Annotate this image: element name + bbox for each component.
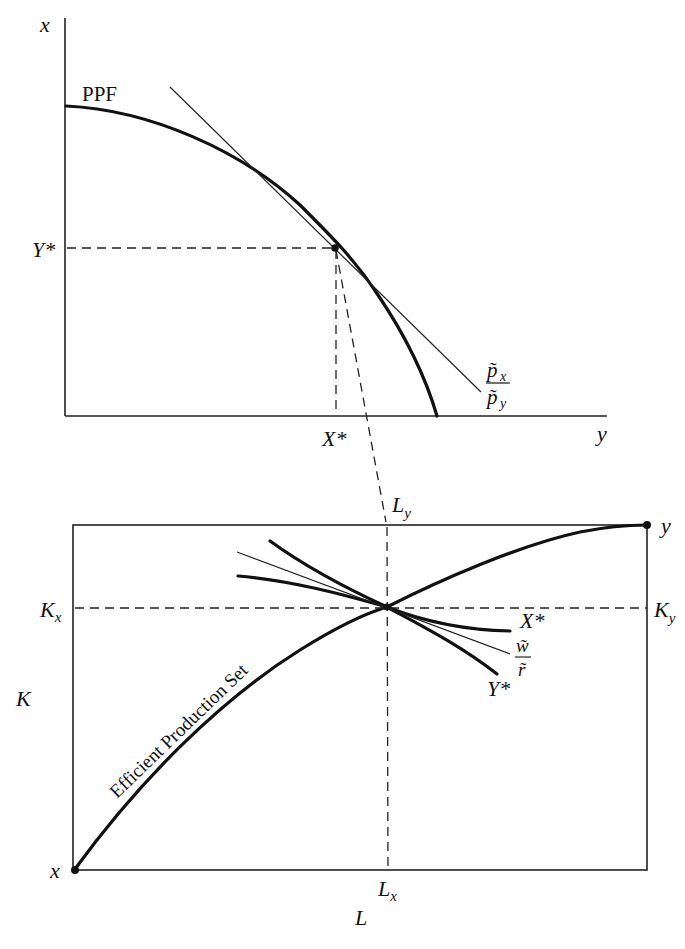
kx-label: Kx xyxy=(39,597,62,625)
origin-y-label: y xyxy=(659,513,671,538)
optimum-point xyxy=(331,244,339,252)
isoquant-x-star-label: X* xyxy=(519,608,544,633)
axis-x-label: x xyxy=(39,12,50,37)
axis-y-label: y xyxy=(595,421,607,446)
ppf-label: PPF xyxy=(82,82,117,106)
efficient-production-set-curve xyxy=(75,525,647,869)
rent-denominator: r̃ xyxy=(518,659,527,680)
efficient-production-set-label: Efficient Production Set xyxy=(105,659,252,802)
price-y-denominator: p̃ xyxy=(485,385,498,409)
origin-x-label: x xyxy=(49,858,60,883)
price-y-subscript: y xyxy=(498,396,507,411)
isoquant-y-star-label: Y* xyxy=(487,676,510,701)
lx-label: Lx xyxy=(377,876,397,904)
y-star-label: Y* xyxy=(32,237,55,262)
ppf-panel: x PPF Y* X* y p̃ x p̃ y xyxy=(32,12,607,522)
economics-diagram: x PPF Y* X* y p̃ x p̃ y Ly xyxy=(0,0,685,949)
tangency-point xyxy=(384,604,391,611)
origin-y-point xyxy=(643,521,651,529)
origin-x-point xyxy=(71,866,79,874)
wage-numerator: w̃ xyxy=(516,635,529,656)
lx-guide xyxy=(387,527,388,869)
price-ratio-label: p̃ x p̃ y xyxy=(485,358,510,411)
wage-rent-ratio-label: w̃ r̃ xyxy=(515,635,531,680)
factor-price-line xyxy=(237,552,510,654)
edgeworth-box xyxy=(73,525,647,870)
price-line xyxy=(170,87,481,392)
ky-label: Ky xyxy=(653,597,676,626)
l-axis-label: L xyxy=(354,905,367,930)
k-axis-label: K xyxy=(15,686,32,711)
price-x-numerator: p̃ xyxy=(485,358,498,382)
price-x-subscript: x xyxy=(499,369,507,384)
ly-label: Ly xyxy=(391,492,411,521)
x-star-label: X* xyxy=(321,426,346,451)
ppf-curve xyxy=(66,106,437,416)
edgeworth-box-panel: Ly y Kx Ky K x Lx L X* Y* w̃ r̃ Efficien… xyxy=(15,492,676,930)
